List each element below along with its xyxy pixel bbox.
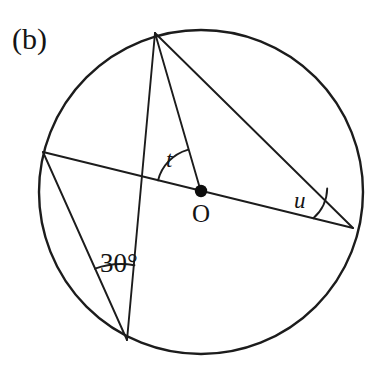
chord-apex-to-right-segment bbox=[155, 33, 353, 228]
geometry-figure-panel: (b) O t u 30° bbox=[0, 0, 379, 378]
center-point-dot bbox=[195, 185, 207, 197]
angle-u-arc bbox=[313, 188, 327, 218]
panel-label: (b) bbox=[12, 22, 47, 56]
chord-left-to-bottom-segment bbox=[43, 152, 127, 340]
angle-30-label: 30° bbox=[100, 248, 138, 278]
angle-t-label: t bbox=[166, 147, 173, 172]
center-label-o: O bbox=[192, 200, 210, 227]
angle-u-label: u bbox=[294, 188, 306, 213]
chord-apex-to-bottom-segment bbox=[127, 33, 155, 340]
angle-t-arc bbox=[158, 150, 188, 181]
circle-geometry-diagram: (b) O t u 30° bbox=[0, 0, 379, 378]
